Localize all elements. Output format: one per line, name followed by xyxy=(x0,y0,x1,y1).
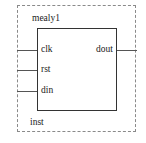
instance-label: inst xyxy=(30,117,44,128)
pin-label-clk: clk xyxy=(41,44,53,55)
pin-wire-dout[interactable] xyxy=(117,50,137,51)
pin-wire-rst[interactable] xyxy=(17,70,37,71)
pin-label-dout: dout xyxy=(96,44,113,55)
pin-label-rst: rst xyxy=(41,64,51,75)
pin-label-din: din xyxy=(41,85,53,96)
pin-wire-clk[interactable] xyxy=(17,50,37,51)
pin-wire-din[interactable] xyxy=(17,91,37,92)
block-title: mealy1 xyxy=(32,13,60,24)
